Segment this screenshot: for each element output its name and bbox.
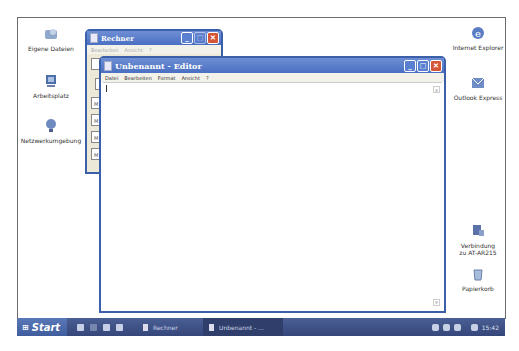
editor-window[interactable]: Unbenannt - Editor _ □ ✕ Datei Bearbeite… [99, 56, 446, 313]
start-label: Start [32, 322, 60, 333]
quicklaunch-browser-icon[interactable] [77, 324, 84, 331]
taskbar-button-label: Rechner [153, 324, 178, 331]
tray-volume-icon[interactable] [454, 324, 461, 331]
calculator-title: Rechner [101, 34, 134, 43]
editor-titlebar[interactable]: Unbenannt - Editor _ □ ✕ [101, 58, 444, 73]
close-button[interactable]: ✕ [207, 32, 219, 44]
editor-menubar: Datei Bearbeiten Format Ansicht ? [101, 73, 444, 82]
notepad-app-icon [209, 324, 214, 331]
minimize-button[interactable]: _ [404, 60, 416, 72]
clock[interactable]: 15:42 [482, 324, 499, 331]
desktop-icon-label: Netzwerkumgebung [21, 137, 81, 144]
quicklaunch-media-icon[interactable] [103, 324, 110, 331]
network-connection-icon [470, 223, 486, 239]
maximize-button[interactable]: □ [417, 60, 429, 72]
network-places-icon [43, 118, 59, 134]
editor-title: Unbenannt - Editor [115, 61, 202, 71]
recycle-bin-icon [470, 266, 486, 282]
menu-item-format[interactable]: Format [158, 75, 176, 81]
desktop: Eigene Dateien Arbeitsplatz Netzwerkumge… [17, 17, 506, 319]
internet-explorer-icon: e [470, 25, 486, 41]
text-caret [106, 85, 107, 92]
start-button[interactable]: ⊞ Start [17, 318, 67, 336]
calculator-menubar: Bearbeiten Ansicht ? [87, 45, 221, 54]
menu-item-ansicht[interactable]: Ansicht [181, 75, 199, 81]
desktop-icon-label: Eigene Dateien [28, 45, 74, 52]
desktop-icon-network-places[interactable]: Netzwerkumgebung [16, 118, 86, 144]
windows-logo-icon: ⊞ [22, 323, 29, 332]
desktop-icon-label: Arbeitsplatz [33, 92, 69, 99]
minimize-button[interactable]: _ [181, 32, 193, 44]
menu-item-bearbeiten[interactable]: Bearbeiten [91, 47, 118, 53]
taskbar-button-editor[interactable]: Unbenannt - ... [203, 318, 283, 336]
quick-launch [77, 324, 123, 331]
menu-item-help[interactable]: ? [149, 47, 152, 53]
calculator-app-icon [143, 324, 148, 331]
editor-text-area[interactable]: ▲ ▼ [103, 82, 442, 309]
desktop-icon-label: Internet Explorer [453, 44, 504, 51]
tray-connection-icon[interactable] [471, 324, 478, 331]
tray-antivirus-icon[interactable] [432, 324, 439, 331]
taskbar-button-rechner[interactable]: Rechner [137, 321, 197, 334]
desktop-icon-network-connection[interactable]: Verbindung zu AT-AR215 [443, 223, 513, 256]
svg-text:e: e [475, 28, 481, 39]
my-documents-icon [43, 26, 59, 42]
system-tray: 15:42 [426, 318, 505, 336]
quicklaunch-mail-icon[interactable] [116, 324, 123, 331]
scroll-up-arrow-icon[interactable]: ▲ [433, 86, 440, 93]
close-button[interactable]: ✕ [430, 60, 442, 72]
menu-item-ansicht[interactable]: Ansicht [124, 47, 142, 53]
menu-item-help[interactable]: ? [206, 75, 209, 81]
notepad-app-icon [104, 61, 112, 71]
desktop-icon-label: Verbindung zu AT-AR215 [458, 242, 498, 256]
menu-item-datei[interactable]: Datei [105, 75, 118, 81]
taskbar-button-label: Unbenannt - ... [219, 324, 264, 331]
desktop-icon-internet-explorer[interactable]: e Internet Explorer [443, 25, 513, 51]
desktop-icon-label: Outlook Express [454, 94, 503, 101]
desktop-icon-label: Papierkorb [462, 285, 494, 292]
desktop-icon-my-computer[interactable]: Arbeitsplatz [16, 73, 86, 99]
quicklaunch-desktop-icon[interactable] [90, 324, 97, 331]
desktop-icon-my-documents[interactable]: Eigene Dateien [16, 26, 86, 52]
desktop-icon-recycle-bin[interactable]: Papierkorb [443, 266, 513, 292]
maximize-button[interactable]: □ [194, 32, 206, 44]
calculator-titlebar[interactable]: Rechner _ □ ✕ [87, 31, 221, 45]
scroll-down-arrow-icon[interactable]: ▼ [433, 299, 440, 306]
tray-network-icon[interactable] [443, 324, 450, 331]
outlook-express-icon [470, 75, 486, 91]
desktop-icon-outlook-express[interactable]: Outlook Express [443, 75, 513, 101]
menu-item-bearbeiten[interactable]: Bearbeiten [124, 75, 151, 81]
my-computer-icon [43, 73, 59, 89]
calculator-app-icon [90, 33, 98, 43]
taskbar: ⊞ Start Rechner Unbenannt - ... 15:42 [17, 318, 505, 336]
